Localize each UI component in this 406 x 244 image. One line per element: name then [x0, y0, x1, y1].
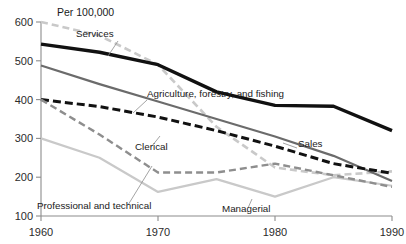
y-axis-ticks: 100200300400500600 — [15, 16, 41, 222]
y-tick-label: 400 — [15, 94, 33, 106]
leader-agriculture — [133, 100, 147, 113]
chart-canvas: Per 100,000 100200300400500600 196019701… — [0, 0, 406, 244]
y-tick-label: 300 — [15, 132, 33, 144]
x-tick-label: 1970 — [146, 226, 170, 238]
series-line-clerical — [41, 100, 392, 174]
y-tick-label: 500 — [15, 55, 33, 67]
x-tick-label: 1980 — [263, 226, 287, 238]
series-label-services: Services — [76, 28, 114, 39]
x-tick-label: 1960 — [29, 226, 53, 238]
series-layer — [41, 22, 392, 197]
series-label-sales: Sales — [298, 138, 323, 149]
line-chart: Per 100,000 100200300400500600 196019701… — [0, 0, 406, 244]
series-label-professional-and-technical: Professional and technical — [37, 200, 151, 211]
series-label-agriculture-forestry-and-fishing: Agriculture, forestry, and fishing — [147, 88, 284, 99]
series-label-clerical: Clerical — [135, 141, 168, 152]
x-axis-ticks: 1960197019801990 — [29, 216, 404, 238]
y-tick-label: 200 — [15, 171, 33, 183]
series-line-professional-and-technical — [41, 138, 392, 196]
x-tick-label: 1990 — [380, 226, 404, 238]
series-label-managerial: Managerial — [222, 203, 270, 214]
y-tick-label: 100 — [15, 210, 33, 222]
chart-unit-label: Per 100,000 — [57, 6, 114, 18]
y-tick-label: 600 — [15, 16, 33, 28]
